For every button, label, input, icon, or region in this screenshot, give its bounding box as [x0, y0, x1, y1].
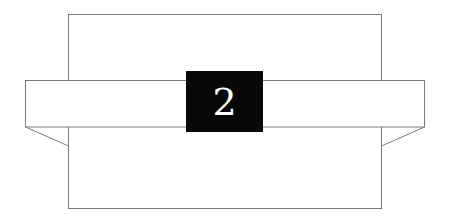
figure-container: 2 — [0, 0, 449, 224]
diagram-canvas: 2 — [0, 0, 449, 224]
label-number: 2 — [212, 80, 236, 124]
